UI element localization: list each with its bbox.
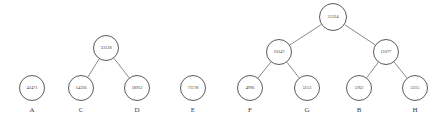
node-weight: 5315 [411, 86, 420, 91]
leaf-symbol-label: C [61, 107, 101, 114]
node-weight: 21224 [327, 15, 338, 20]
tree-leaf-node[interactable]: 42471 [19, 75, 45, 101]
leaf-symbol-label: D [117, 107, 157, 114]
node-weight: 4996 [246, 86, 255, 91]
tree-edge [114, 58, 129, 77]
node-weight: 11077 [381, 50, 392, 55]
node-weight: 71178 [188, 86, 199, 91]
leaf-symbol-label: G [287, 107, 327, 114]
tree-edge [88, 59, 99, 77]
tree-edge [290, 25, 321, 45]
tree-internal-node[interactable]: 10147 [266, 39, 292, 65]
tree-leaf-node[interactable]: 5762 [346, 75, 372, 101]
tree-internal-node[interactable]: 21224 [319, 3, 347, 31]
leaf-symbol-label: A [12, 107, 52, 114]
tree-leaf-node[interactable]: 18912 [124, 75, 150, 101]
node-weight: 14226 [75, 86, 86, 91]
node-weight: 5762 [355, 86, 364, 91]
node-weight: 5153 [303, 86, 312, 91]
tree-edge [287, 62, 299, 77]
tree-leaf-node[interactable]: 5315 [402, 75, 428, 101]
tree-leaf-node[interactable]: 4996 [237, 75, 263, 101]
tree-edge [367, 62, 378, 77]
tree-edge [258, 62, 271, 78]
tree-leaf-node[interactable]: 5153 [294, 75, 320, 101]
node-weight: 42471 [26, 86, 37, 91]
tree-internal-node[interactable]: 11077 [373, 39, 399, 65]
node-weight: 33138 [100, 46, 111, 51]
node-weight: 10147 [273, 50, 284, 55]
node-weight: 18912 [131, 86, 142, 91]
leaf-symbol-label: B [339, 107, 379, 114]
tree-leaf-node[interactable]: 71178 [180, 75, 206, 101]
tree-edge [394, 62, 407, 78]
tree-edge [345, 25, 375, 45]
leaf-symbol-label: E [173, 107, 213, 114]
huffman-forest-diagram: 42471A3313814226C18912D71178E21224101474… [0, 0, 443, 119]
tree-internal-node[interactable]: 33138 [93, 35, 119, 61]
tree-leaf-node[interactable]: 14226 [68, 75, 94, 101]
leaf-symbol-label: F [230, 107, 270, 114]
leaf-symbol-label: H [395, 107, 435, 114]
